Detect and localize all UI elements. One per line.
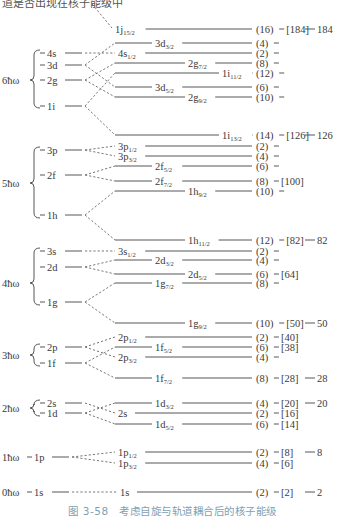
degeneracy-label: (16): [256, 24, 274, 36]
split-level-row: 1d5/2(6)[14]: [115, 419, 298, 432]
shell-group: 2ħω2s1d: [2, 398, 82, 419]
shell-group: 3ħω2p1f: [2, 342, 82, 369]
splitting-connectors: [72, 4, 117, 492]
figure-caption: 图 3-58 考虑自旋与轨道耦合后的核子能级: [0, 503, 345, 518]
brace: [30, 248, 40, 305]
oscillator-level-label: 2g: [47, 75, 58, 86]
orbital-label: 1s: [120, 487, 129, 498]
oscillator-shell-groups: 6ħω4s3d2g1i5ħω3p2f1h4ħω3s2d1g3ħω2p1f2ħω2…: [2, 48, 82, 498]
oscillator-level-label: 1f: [47, 358, 56, 369]
oscillator-level-label: 3d: [47, 60, 58, 71]
cumulative-count: [8]: [281, 447, 293, 458]
split-connector: [72, 452, 115, 457]
orbital-label: 4s1/2: [118, 48, 136, 61]
orbital-label: 1f7/2: [155, 373, 172, 386]
oscillator-level-label: 1g: [47, 297, 58, 308]
split-connector: [85, 413, 115, 424]
degeneracy-label: (10): [256, 186, 274, 198]
orbital-label: 1h11/2: [188, 235, 210, 248]
orbital-label: 2f7/2: [155, 176, 172, 189]
split-level-row: 1j15/2(16)[184]184: [115, 24, 334, 37]
split-level-row: 2d5/2(6)[64]: [115, 269, 298, 282]
shell-group: 4ħω3s2d1g: [2, 246, 82, 308]
cumulative-count: [38]: [281, 342, 299, 353]
orbital-label: 2s: [118, 408, 127, 419]
shell-group: 1ħω1p: [2, 452, 69, 463]
orbital-label: 1i13/2: [222, 130, 242, 143]
oscillator-level-label: 2d: [47, 262, 58, 273]
orbital-label: 2p1/2: [118, 332, 137, 345]
cumulative-count: [82]: [286, 235, 304, 246]
orbital-label: 3s1/2: [118, 246, 136, 259]
orbital-label: 2g7/2: [188, 58, 207, 71]
oscillator-level-label: 3s: [47, 246, 56, 257]
orbital-label: 3d5/2: [155, 82, 174, 95]
split-level-row: 2s(2)[16]: [118, 408, 298, 420]
cumulative-count: [50]: [286, 318, 304, 329]
orbital-label: 1g9/2: [188, 318, 207, 331]
split-level-row: 1i13/2(14)[126]126: [115, 130, 333, 143]
oscillator-level-label: 1d: [47, 408, 58, 419]
split-connector: [85, 363, 115, 378]
degeneracy-label: (10): [256, 92, 274, 104]
oscillator-level-label: 2f: [47, 170, 56, 181]
orbital-label: 2p3/2: [118, 352, 137, 365]
orbital-label: 1d3/2: [155, 398, 174, 411]
shell-energy-label: 0ħω: [2, 487, 20, 498]
magic-number: 126: [317, 130, 333, 141]
split-level-row: 1f7/2(8)[28]28: [115, 373, 328, 386]
split-level-row: 1g9/2(10)[50]50: [115, 318, 328, 331]
magic-number: 184: [317, 24, 334, 35]
orbital-label: 1i11/2: [222, 68, 242, 81]
split-connector: [72, 457, 115, 463]
split-level-row: 2p1/2(2)[40]: [118, 332, 298, 345]
split-connector: [85, 106, 115, 135]
split-level-row: 3p1/2(2): [118, 141, 279, 154]
split-level-row: 3s1/2(2): [118, 246, 279, 259]
spin-orbit-levels: 1j15/2(16)[184]1843d3/2(4)4s1/2(2)2g7/2(…: [115, 24, 334, 499]
oscillator-level-label: 4s: [47, 48, 56, 59]
degeneracy-label: (4): [256, 458, 269, 470]
split-connector: [85, 267, 115, 274]
degeneracy-label: (2): [256, 487, 269, 499]
orbital-label: 2d5/2: [188, 269, 207, 282]
magic-number: 28: [317, 373, 328, 384]
degeneracy-label: (6): [256, 419, 269, 431]
split-level-row: 2d3/2(4): [115, 255, 279, 268]
oscillator-level-label: 1i: [47, 101, 55, 112]
brace: [30, 344, 40, 366]
magic-number: 20: [317, 398, 328, 409]
oscillator-level-label: 3p: [47, 145, 58, 156]
magic-number: 2: [317, 487, 322, 498]
split-level-row: 1h9/2(10): [115, 186, 284, 199]
oscillator-level-label: 1h: [47, 210, 58, 221]
shell-energy-label: 6ħω: [2, 75, 20, 86]
shell-group: 0ħω1s: [2, 487, 69, 498]
split-connector: [85, 150, 115, 156]
magic-number: 50: [317, 318, 328, 329]
degeneracy-label: (6): [256, 161, 269, 173]
split-connector: [85, 347, 115, 363]
orbital-label: 1d5/2: [155, 419, 174, 432]
split-level-row: 3d3/2(4): [115, 38, 279, 51]
split-connector: [85, 43, 115, 65]
split-level-row: 3p3/2(4): [118, 151, 279, 164]
brace: [30, 147, 40, 218]
degeneracy-label: (12): [256, 68, 274, 80]
shell-group: 5ħω3p2f1h: [2, 145, 82, 221]
cumulative-count: [64]: [281, 269, 299, 280]
split-connector: [85, 166, 115, 175]
degeneracy-label: (10): [256, 318, 274, 330]
orbital-label: 1g7/2: [155, 278, 174, 291]
split-level-row: 1h11/2(12)[82]82: [115, 235, 328, 248]
orbital-label: 2d3/2: [155, 255, 174, 268]
degeneracy-label: (4): [256, 255, 269, 267]
split-connector: [85, 80, 115, 97]
cumulative-count: [100]: [281, 176, 304, 187]
orbital-label: 1f5/2: [155, 342, 172, 355]
split-connector: [85, 175, 115, 181]
shell-energy-label: 2ħω: [2, 403, 20, 414]
cumulative-count: [6]: [281, 458, 293, 469]
split-level-row: 2g7/2(8): [115, 58, 279, 71]
split-level-row: 2p3/2(4): [118, 352, 279, 365]
